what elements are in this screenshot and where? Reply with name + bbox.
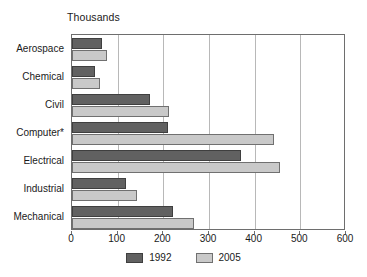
- tick-label: 200: [154, 233, 171, 244]
- bar-civil-1992: [72, 94, 150, 105]
- bar-chart: Thousands AerospaceChemicalCivilComputer…: [0, 0, 367, 277]
- bar-group: [72, 175, 344, 203]
- bar-chemical-2005: [72, 78, 100, 89]
- chart-legend: 19922005: [0, 252, 367, 263]
- tick-label: 600: [337, 233, 354, 244]
- tick-label: 0: [68, 233, 74, 244]
- bar-group: [72, 203, 344, 231]
- bar-industrial-2005: [72, 190, 137, 201]
- legend-item-2005[interactable]: 2005: [196, 252, 241, 263]
- tick-label: 100: [108, 233, 125, 244]
- bar-aerospace-1992: [72, 38, 102, 49]
- bar-mechanical-1992: [72, 206, 173, 217]
- category-label: Chemical: [22, 71, 64, 82]
- bar-industrial-1992: [72, 178, 126, 189]
- plot-area: [71, 34, 345, 230]
- bar-electrical-1992: [72, 150, 241, 161]
- bar-electrical-2005: [72, 162, 280, 173]
- legend-swatch-icon: [126, 253, 143, 263]
- value-axis-ticks: 0100200300400500600: [71, 231, 345, 247]
- bar-civil-2005: [72, 106, 169, 117]
- category-label: Civil: [45, 99, 64, 110]
- category-label: Electrical: [23, 155, 64, 166]
- legend-label: 1992: [149, 252, 171, 263]
- category-label: Mechanical: [13, 211, 64, 222]
- bar-mechanical-2005: [72, 218, 194, 229]
- bar-rows: [72, 35, 344, 229]
- category-label: Aerospace: [16, 43, 64, 54]
- category-label: Industrial: [23, 183, 64, 194]
- legend-item-1992[interactable]: 1992: [126, 252, 171, 263]
- tick-label: 300: [200, 233, 217, 244]
- category-axis-labels: AerospaceChemicalCivilComputer*Electrica…: [0, 34, 68, 230]
- tick-label: 400: [245, 233, 262, 244]
- bar-computer-2005: [72, 134, 274, 145]
- bar-group: [72, 119, 344, 147]
- legend-label: 2005: [219, 252, 241, 263]
- bar-group: [72, 91, 344, 119]
- legend-swatch-icon: [196, 253, 213, 263]
- chart-axis-title: Thousands: [67, 11, 120, 23]
- bar-group: [72, 35, 344, 63]
- bar-group: [72, 63, 344, 91]
- bar-group: [72, 147, 344, 175]
- bar-chemical-1992: [72, 66, 95, 77]
- bar-aerospace-2005: [72, 50, 107, 61]
- category-label: Computer*: [16, 127, 64, 138]
- tick-label: 500: [291, 233, 308, 244]
- bar-computer-1992: [72, 122, 168, 133]
